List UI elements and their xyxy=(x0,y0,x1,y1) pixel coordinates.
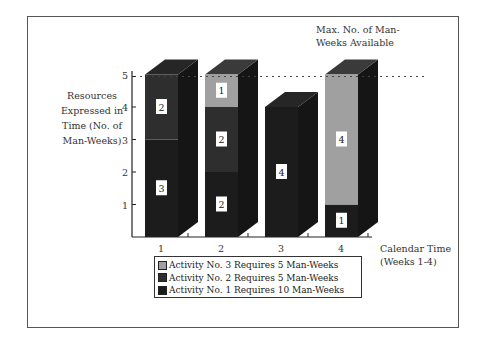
x-label-line: (Weeks 1-4) xyxy=(380,255,451,268)
segment-label: 4 xyxy=(338,134,344,145)
bar-side-face xyxy=(298,92,318,237)
x-tick-label: 4 xyxy=(338,243,344,254)
y-label-line: Expressed in xyxy=(60,103,124,118)
segment-label: 2 xyxy=(218,134,224,145)
y-label-line: Time (No. of xyxy=(60,118,124,133)
legend-label: Activity No. 1 Requires 10 Man-Weeks xyxy=(169,284,344,297)
segment-label: 2 xyxy=(218,199,224,210)
legend-label: Activity No. 2 Requires 5 Man-Weeks xyxy=(169,272,338,285)
annotation-line: Weeks Available xyxy=(316,36,400,49)
x-axis-label: Calendar Time (Weeks 1-4) xyxy=(380,242,451,268)
y-label-line: Resources xyxy=(60,88,124,103)
x-tick-label: 3 xyxy=(278,243,284,254)
legend-swatch xyxy=(158,261,167,270)
legend-swatch xyxy=(158,273,167,282)
legend-swatch xyxy=(158,286,167,295)
bar-side-face xyxy=(238,60,258,238)
segment-label: 4 xyxy=(278,167,284,178)
segment-label: 3 xyxy=(158,183,164,194)
y-label-line: Man-Weeks) xyxy=(60,133,124,148)
bar-side-face xyxy=(358,60,378,238)
segment-label: 1 xyxy=(338,215,344,226)
legend: Activity No. 3 Requires 5 Man-Weeks Acti… xyxy=(154,256,362,298)
legend-item-activity-3: Activity No. 3 Requires 5 Man-Weeks xyxy=(158,259,361,272)
annotation-line: Max. No. of Man- xyxy=(316,23,400,36)
bar-side-face xyxy=(178,60,198,238)
x-tick-label: 1 xyxy=(158,243,164,254)
legend-label: Activity No. 3 Requires 5 Man-Weeks xyxy=(169,259,338,272)
x-label-line: Calendar Time xyxy=(380,242,451,255)
legend-item-activity-2: Activity No. 2 Requires 5 Man-Weeks xyxy=(158,272,361,285)
x-tick-label: 2 xyxy=(218,243,224,254)
y-axis-label: Resources Expressed in Time (No. of Man-… xyxy=(60,88,124,148)
segment-label: 1 xyxy=(218,85,224,96)
segment-label: 2 xyxy=(158,102,164,113)
annotation-max-man-weeks: Max. No. of Man- Weeks Available xyxy=(316,23,400,49)
legend-item-activity-1: Activity No. 1 Requires 10 Man-Weeks xyxy=(158,284,361,297)
y-tick-label: 2 xyxy=(122,167,128,178)
y-tick-label: 5 xyxy=(122,70,128,81)
y-tick-label: 1 xyxy=(122,200,128,211)
